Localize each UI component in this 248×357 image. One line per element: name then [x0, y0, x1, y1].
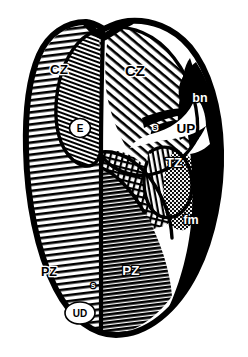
gland-body-group: [0, 0, 248, 357]
label-fibromuscular-stroma: fm: [183, 213, 198, 227]
marker-urethra-distal: UD: [65, 302, 95, 324]
label-urethra-distal: UD: [73, 308, 87, 319]
label-peripheral-zone-left: PZ: [41, 265, 57, 279]
label-septum-lower: s: [91, 280, 96, 290]
label-central-zone-left: CZ: [50, 62, 68, 77]
prostate-diagram-canvas: CZ CZ PZ PZ TZ UP bn fm s s E UD: [0, 0, 248, 357]
marker-ejaculatory-duct: E: [70, 119, 91, 138]
label-bladder-neck: bn: [192, 91, 207, 105]
prostate-zonal-anatomy-figure: CZ CZ PZ PZ TZ UP bn fm s s E UD: [0, 0, 248, 357]
label-urethra-proximal: UP: [177, 121, 196, 136]
urethral-axis: [101, 29, 103, 334]
label-septum-upper: s: [153, 122, 158, 132]
label-central-zone-right: CZ: [125, 62, 145, 79]
label-peripheral-zone-right: PZ: [122, 263, 139, 278]
label-ejaculatory-duct: E: [77, 123, 84, 134]
label-transition-zone: TZ: [166, 155, 183, 170]
